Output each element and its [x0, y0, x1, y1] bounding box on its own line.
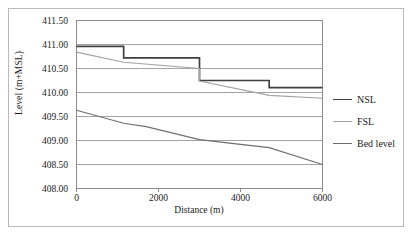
y-tick-label: 408.50 — [26, 160, 68, 170]
y-tick-label: 409.00 — [26, 136, 68, 146]
legend-swatch-icon — [333, 121, 352, 122]
x-axis-title: Distance (m) — [76, 205, 322, 215]
series-line-bed-level — [77, 110, 323, 164]
legend-label: FSL — [357, 116, 374, 127]
x-axis-tick-marks — [77, 189, 323, 193]
y-tick-label: 411.50 — [26, 16, 68, 26]
chart-legend: NSLFSLBed level — [333, 88, 411, 154]
y-axis-title: Level (m+MSL) — [14, 28, 24, 138]
legend-label: NSL — [357, 94, 376, 105]
legend-item-nsl: NSL — [333, 88, 411, 110]
y-axis-tick-labels: 408.00408.50409.00409.50410.00410.50411.… — [24, 0, 68, 243]
y-tick-label: 411.00 — [26, 40, 68, 50]
y-tick-label: 410.50 — [26, 64, 68, 74]
y-tick-label: 409.50 — [26, 112, 68, 122]
legend-item-fsl: FSL — [333, 110, 411, 132]
legend-item-bed-level: Bed level — [333, 132, 411, 154]
x-tick-label: 4000 — [211, 193, 271, 203]
series-layer — [77, 46, 323, 164]
legend-swatch-icon — [333, 143, 352, 144]
x-tick-label: 2000 — [129, 193, 189, 203]
legend-swatch-icon — [333, 99, 352, 100]
x-tick-label: 6000 — [293, 193, 353, 203]
legend-label: Bed level — [357, 138, 395, 149]
y-tick-label: 410.00 — [26, 88, 68, 98]
x-tick-label: 0 — [47, 193, 107, 203]
